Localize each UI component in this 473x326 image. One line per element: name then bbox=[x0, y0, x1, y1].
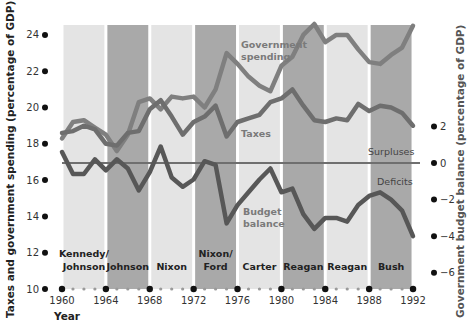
y-left-tick-label: 24 bbox=[26, 29, 39, 40]
x-minor-tick bbox=[115, 287, 118, 290]
term-label: Reagan bbox=[283, 261, 323, 272]
x-tick-label: 1980 bbox=[269, 295, 294, 306]
x-minor-tick bbox=[258, 287, 261, 290]
x-major-tick bbox=[322, 286, 328, 292]
x-minor-tick bbox=[71, 287, 74, 290]
y-right-tick-label: −6 bbox=[440, 267, 455, 278]
x-major-tick bbox=[278, 286, 284, 292]
x-minor-tick bbox=[82, 287, 85, 290]
x-minor-tick bbox=[159, 287, 162, 290]
y-left-tick-label: 14 bbox=[26, 211, 39, 222]
chart: Kennedy/JohnsonJohnsonNixonNixon/FordCar… bbox=[0, 0, 473, 326]
y-axis-right-title: Government budget balance (percentage of… bbox=[454, 25, 466, 318]
y-left-tick bbox=[42, 177, 48, 183]
y-axis-right: 20−2−4−6 bbox=[431, 121, 455, 278]
x-minor-tick bbox=[357, 287, 360, 290]
y-left-tick bbox=[42, 105, 48, 111]
x-tick-label: 1964 bbox=[93, 295, 118, 306]
x-tick-label: 1992 bbox=[400, 295, 425, 306]
term-label: Kennedy/ bbox=[59, 248, 110, 259]
y-left-tick-label: 22 bbox=[26, 66, 39, 77]
term-label: Nixon bbox=[156, 261, 187, 272]
x-minor-tick bbox=[346, 287, 349, 290]
term-label: Johnson bbox=[62, 261, 106, 272]
x-minor-tick bbox=[390, 287, 393, 290]
x-axis-title: Year bbox=[53, 310, 81, 322]
deficits-label: Deficits bbox=[377, 176, 413, 187]
y-right-tick-label: −2 bbox=[440, 194, 455, 205]
y-right-tick bbox=[431, 160, 437, 166]
y-left-tick bbox=[42, 68, 48, 74]
x-minor-tick bbox=[302, 287, 305, 290]
y-left-tick-label: 20 bbox=[26, 102, 39, 113]
x-minor-tick bbox=[203, 287, 206, 290]
y-right-tick bbox=[431, 270, 437, 276]
x-tick-label: 1988 bbox=[356, 295, 381, 306]
y-right-tick bbox=[431, 197, 437, 203]
term-label: Ford bbox=[204, 261, 228, 272]
y-left-tick-label: 18 bbox=[26, 138, 39, 149]
x-tick-label: 1976 bbox=[225, 295, 250, 306]
x-minor-tick bbox=[93, 287, 96, 290]
term-label: Reagan bbox=[327, 261, 367, 272]
x-minor-tick bbox=[247, 287, 250, 290]
y-left-tick-label: 16 bbox=[26, 175, 39, 186]
x-tick-label: 1972 bbox=[181, 295, 206, 306]
y-right-tick-label: −4 bbox=[440, 231, 455, 242]
x-axis: 196019641968197219761980198419881992 bbox=[49, 286, 425, 306]
surpluses-label: Surpluses bbox=[368, 146, 414, 157]
x-minor-tick bbox=[126, 287, 129, 290]
y-left-tick bbox=[42, 286, 48, 292]
term-label: Carter bbox=[243, 261, 277, 272]
term-label: Bush bbox=[378, 261, 405, 272]
spending-series-label: Government bbox=[241, 39, 308, 50]
spending-series-label-line2: spending bbox=[241, 51, 290, 62]
y-axis-left-title: Taxes and government spending (percentag… bbox=[4, 1, 16, 318]
x-major-tick bbox=[147, 286, 153, 292]
x-minor-tick bbox=[269, 287, 272, 290]
x-minor-tick bbox=[335, 287, 338, 290]
y-right-tick-label: 2 bbox=[440, 121, 446, 132]
y-right-tick bbox=[431, 123, 437, 129]
y-left-tick-label: 10 bbox=[26, 284, 39, 295]
x-major-tick bbox=[234, 286, 240, 292]
y-right-tick-label: 0 bbox=[440, 158, 446, 169]
x-minor-tick bbox=[313, 287, 316, 290]
x-tick-label: 1968 bbox=[137, 295, 162, 306]
term-label: Johnson bbox=[106, 261, 150, 272]
x-minor-tick bbox=[291, 287, 294, 290]
x-minor-tick bbox=[214, 287, 217, 290]
budget-balance-series-label-line2: balance bbox=[243, 218, 285, 229]
taxes-series-label: Taxes bbox=[241, 128, 271, 139]
x-minor-tick bbox=[225, 287, 228, 290]
budget-balance-series-label: Budget bbox=[243, 206, 282, 217]
y-left-tick-label: 12 bbox=[26, 247, 39, 258]
term-label: Nixon/ bbox=[199, 248, 234, 259]
x-major-tick bbox=[190, 286, 196, 292]
y-left-tick bbox=[42, 213, 48, 219]
x-major-tick bbox=[366, 286, 372, 292]
x-major-tick bbox=[59, 286, 65, 292]
x-tick-label: 1984 bbox=[313, 295, 338, 306]
y-left-tick bbox=[42, 250, 48, 256]
y-left-tick bbox=[42, 141, 48, 147]
term-band-4 bbox=[239, 25, 280, 289]
x-minor-tick bbox=[379, 287, 382, 290]
y-right-tick bbox=[431, 233, 437, 239]
x-major-tick bbox=[103, 286, 109, 292]
y-axis-left: 1012141618202224 bbox=[26, 29, 48, 294]
y-left-tick bbox=[42, 32, 48, 38]
x-tick-label: 1960 bbox=[49, 295, 74, 306]
x-minor-tick bbox=[170, 287, 173, 290]
term-band-1 bbox=[107, 25, 148, 289]
x-minor-tick bbox=[137, 287, 140, 290]
x-minor-tick bbox=[400, 287, 403, 290]
term-band-6 bbox=[327, 25, 368, 289]
x-major-tick bbox=[410, 286, 416, 292]
x-minor-tick bbox=[181, 287, 184, 290]
term-band-5 bbox=[283, 25, 324, 289]
